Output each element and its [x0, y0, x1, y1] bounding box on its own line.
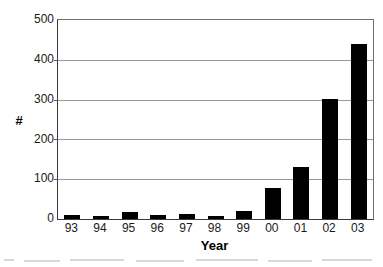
bar-slot-98 — [201, 20, 230, 219]
x-tick-label-00: 00 — [257, 221, 286, 237]
scan-smudge-2 — [24, 260, 60, 262]
bar-slot-99 — [230, 20, 259, 219]
bar-95 — [122, 212, 138, 219]
bar-slot-93 — [58, 20, 87, 219]
x-tick-label-94: 94 — [86, 221, 115, 237]
bar-01 — [293, 167, 309, 219]
scan-smudge-4 — [136, 260, 184, 262]
bar-96 — [150, 215, 166, 219]
bar-slot-95 — [115, 20, 144, 219]
x-tick-label-99: 99 — [229, 221, 258, 237]
x-tick-label-98: 98 — [200, 221, 229, 237]
y-tick-label-400: 400 — [24, 53, 54, 65]
y-tick-label-100: 100 — [24, 172, 54, 184]
x-tick-label-03: 03 — [343, 221, 372, 237]
x-tick-label-02: 02 — [315, 221, 344, 237]
y-tick-label-200: 200 — [24, 133, 54, 145]
bar-chart: # 500 400 300 200 100 0 — [0, 0, 383, 267]
x-tick-label-95: 95 — [114, 221, 143, 237]
bar-00 — [265, 188, 281, 219]
bar-97 — [179, 214, 195, 219]
scan-smudge-7 — [322, 259, 372, 261]
bar-slot-03 — [344, 20, 373, 219]
bar-93 — [64, 215, 80, 219]
scan-smudge-3 — [70, 259, 124, 261]
y-tick-label-300: 300 — [24, 93, 54, 105]
bar-slot-02 — [316, 20, 345, 219]
scan-smudge-1 — [4, 259, 14, 261]
bar-02 — [322, 99, 338, 219]
bar-slot-94 — [87, 20, 116, 219]
x-tick-label-93: 93 — [57, 221, 86, 237]
bar-series — [58, 20, 373, 219]
bar-slot-97 — [173, 20, 202, 219]
bar-99 — [236, 211, 252, 219]
scan-smudge-5 — [196, 259, 258, 261]
plot-area — [57, 19, 374, 220]
scan-smudge-6 — [268, 260, 312, 262]
x-tick-label-97: 97 — [172, 221, 201, 237]
bar-98 — [208, 216, 224, 219]
bar-slot-00 — [258, 20, 287, 219]
y-tick-label-0: 0 — [24, 212, 54, 224]
x-axis-tick-labels: 93 94 95 96 97 98 99 00 01 02 03 — [57, 221, 372, 237]
bar-slot-96 — [144, 20, 173, 219]
y-axis-tick-labels: 500 400 300 200 100 0 — [22, 0, 54, 267]
bar-03 — [351, 44, 367, 219]
x-axis-label: Year — [57, 238, 372, 253]
y-tick-label-500: 500 — [24, 13, 54, 25]
x-tick-label-96: 96 — [143, 221, 172, 237]
bar-94 — [93, 216, 109, 219]
x-tick-label-01: 01 — [286, 221, 315, 237]
bar-slot-01 — [287, 20, 316, 219]
scan-artifact — [0, 259, 383, 263]
